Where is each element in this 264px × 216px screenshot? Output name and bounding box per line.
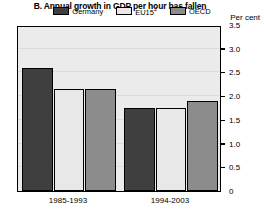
plot-area	[17, 26, 221, 192]
y-axis-tick-label: 2.5	[229, 69, 240, 77]
legend-label-oecd: OECD	[189, 7, 211, 16]
legend-item-eu15[interactable]: EU152	[116, 6, 157, 17]
legend-label-superscript: 2	[154, 6, 157, 12]
y-axis-tick-label: 3.5	[229, 22, 240, 30]
bar-oecd-1985-1993	[85, 89, 116, 191]
y-axis-tick-label: 1.5	[229, 117, 240, 125]
x-axis-tick-label: 1985-1993	[49, 196, 87, 205]
chart-figure: B. Annual growth in GDP per hour has fal…	[0, 0, 264, 216]
y-axis: 00.51.01.52.02.53.03.5	[221, 26, 264, 192]
legend-label-germany: Germany	[72, 7, 103, 16]
legend-label-eu15: EU152	[135, 6, 157, 17]
bar-eu15-1985-1993	[54, 89, 85, 191]
legend-swatch-oecd	[170, 7, 186, 15]
x-axis-tick-label: 1994-2003	[151, 196, 189, 205]
y-axis-tick-label: 2.0	[229, 93, 240, 101]
x-axis: 1985-19931994-2003	[17, 196, 221, 212]
y-axis-tick	[221, 167, 225, 168]
bar-eu15-1994-2003	[156, 108, 187, 191]
chart-legend: GermanyEU152OECD	[0, 6, 264, 17]
legend-swatch-eu15	[116, 7, 132, 15]
bar-germany-1994-2003	[124, 108, 155, 191]
legend-swatch-germany	[53, 7, 69, 15]
y-axis-tick	[221, 96, 225, 97]
bar-oecd-1994-2003	[187, 101, 218, 191]
y-axis-tick-label: 0	[229, 188, 233, 196]
y-axis-tick-label: 3.0	[229, 46, 240, 54]
bars-layer	[18, 27, 220, 191]
y-axis-tick	[221, 143, 225, 144]
y-axis-tick	[221, 72, 225, 73]
y-axis-tick	[221, 48, 225, 49]
y-axis-tick	[221, 120, 225, 121]
y-axis-tick-label: 0.5	[229, 164, 240, 172]
bar-germany-1985-1993	[22, 68, 53, 191]
legend-item-germany[interactable]: Germany	[53, 7, 103, 16]
y-axis-tick-label: 1.0	[229, 141, 240, 149]
legend-item-oecd[interactable]: OECD	[170, 7, 211, 16]
